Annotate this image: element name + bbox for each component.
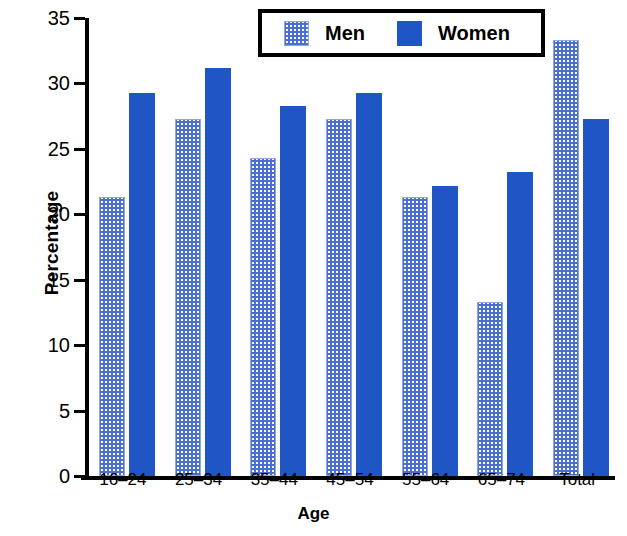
y-axis-tick-label: 0 [30,466,70,486]
bar-women-1624 [129,93,155,476]
bar-men-6574 [477,302,503,476]
x-axis-category-label: 25–34 [161,470,237,490]
y-axis-tick-label: 5 [30,401,70,421]
x-axis-title: Age [0,504,627,524]
x-axis-category-label: Total [539,470,615,490]
y-axis-tick [74,17,85,20]
bars-layer [85,18,615,476]
y-axis-tick [74,475,85,478]
y-axis-tick-label: 15 [30,270,70,290]
legend: Men Women [258,9,545,57]
x-axis-category-label: 16–24 [85,470,161,490]
y-axis-tick-label: 20 [30,204,70,224]
legend-item-men: Men [284,13,365,53]
y-axis-tick-label: 35 [30,8,70,28]
legend-label-men: Men [325,22,365,45]
y-axis-tick-label: 30 [30,73,70,93]
bar-men-4554 [326,119,352,476]
legend-label-women: Women [438,22,510,45]
x-axis-category-labels: 16–2425–3435–4445–5455–6465–74Total [85,470,615,500]
bar-chart: Percentage 05101520253035 16–2425–3435–4… [0,0,627,536]
y-axis-tick-label: 25 [30,139,70,159]
plot-area [85,18,615,476]
y-axis-tick [74,213,85,216]
legend-swatch-women-icon [397,21,422,46]
bar-women-2534 [205,68,231,476]
bar-men-3544 [250,158,276,476]
x-axis-category-label: 65–74 [464,470,540,490]
bar-women-4554 [356,93,382,476]
y-axis-tick [74,82,85,85]
bar-men-2534 [175,119,201,476]
x-axis-category-label: 35–44 [236,470,312,490]
legend-swatch-men-icon [284,21,309,46]
y-axis-tick [74,279,85,282]
x-axis-category-label: 45–54 [312,470,388,490]
y-axis-tick [74,148,85,151]
bar-men-1624 [99,197,125,476]
y-axis-tick-labels: 05101520253035 [30,18,70,477]
y-axis-tick [74,344,85,347]
bar-men-Total [553,40,579,476]
bar-men-5564 [402,197,428,476]
bar-women-3544 [280,106,306,476]
bar-women-Total [583,119,609,476]
bar-women-5564 [432,186,458,477]
x-axis-category-label: 55–64 [388,470,464,490]
y-axis-tick-label: 10 [30,335,70,355]
legend-item-women: Women [397,13,510,53]
y-axis-tick [74,410,85,413]
bar-women-6574 [507,172,533,476]
